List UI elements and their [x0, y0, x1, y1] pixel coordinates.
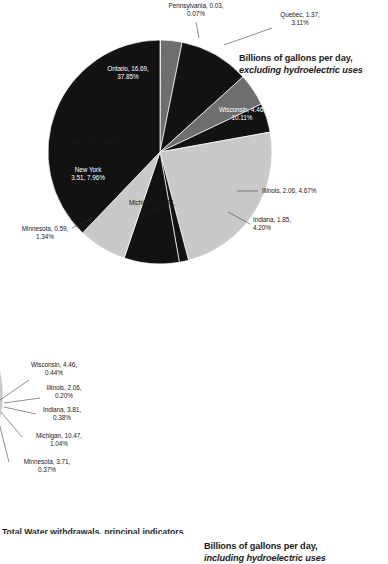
slice-label-pennsylvania: Pennsylvania, 0.03,0.07% — [169, 2, 224, 17]
pie-slices-including — [0, 282, 3, 508]
pie-svg-excluding: Pennsylvania, 0.03,0.07%Quebec, 1.37,3.1… — [0, 0, 388, 268]
chart-title-including: Billions of gallons per day, including h… — [204, 540, 384, 564]
slice-label-indiana: Indiana, 1.85,4.20% — [253, 216, 291, 231]
chart-title-line2: excluding hydroelectric uses — [239, 64, 388, 76]
pie-labels-including: Pennsylvania,0.03, 0.00%Quebec, 305.27,3… — [0, 262, 82, 514]
slice-label-illinois: Illinois, 2.06,0.20% — [47, 384, 82, 399]
chart-including-hydroelectric: Pennsylvania,0.03, 0.00%Quebec, 305.27,3… — [0, 258, 388, 528]
chart-title-line2: including hydroelectric uses — [204, 552, 384, 564]
chart-title-line1: Billions of gallons per day, — [204, 541, 317, 551]
slice-label-indiana: Indiana, 3.81,0.38% — [43, 406, 81, 421]
slice-label-newyork: New York3.51, 7.96% — [71, 166, 105, 181]
slice-label-michigan: Michigan, 10.47,1.04% — [36, 432, 82, 447]
bottom-crop-mask — [0, 534, 388, 538]
slice-label-wisconsin: Wisconsin, 4.46,0.44% — [31, 361, 77, 376]
slice-label-ohio: Ohio, 3.07, 6.96% — [68, 140, 119, 147]
slice-label-quebec: Quebec, 1.37,3.11% — [280, 11, 320, 26]
chart-title-excluding: Billions of gallons per day, excluding h… — [239, 52, 388, 76]
pie-leaders-including — [0, 282, 40, 507]
chart-excluding-hydroelectric: Pennsylvania, 0.03,0.07%Quebec, 1.37,3.1… — [0, 0, 388, 268]
slice-label-minnesota: Minnesota, 0.59,1.34% — [22, 225, 69, 240]
leader-line-indiana — [4, 407, 36, 414]
slice-label-illinois: Illinois, 2.06, 4.67% — [262, 187, 317, 194]
leader-line-pennsylvania — [196, 22, 199, 38]
leader-line-minnesota — [0, 415, 9, 462]
leader-line-michigan — [1, 412, 22, 437]
chart-title-line1: Billions of gallons per day, — [239, 53, 352, 63]
leader-line-quebec — [224, 28, 272, 45]
pie-svg-including: Pennsylvania,0.03, 0.00%Quebec, 305.27,3… — [0, 258, 388, 528]
leader-line-wisconsin — [0, 380, 29, 400]
pie-slice-quebec — [0, 282, 3, 431]
leader-line-illinois — [4, 398, 40, 403]
slice-label-minnesota: Minnesota, 3.71,0.37% — [24, 458, 71, 473]
